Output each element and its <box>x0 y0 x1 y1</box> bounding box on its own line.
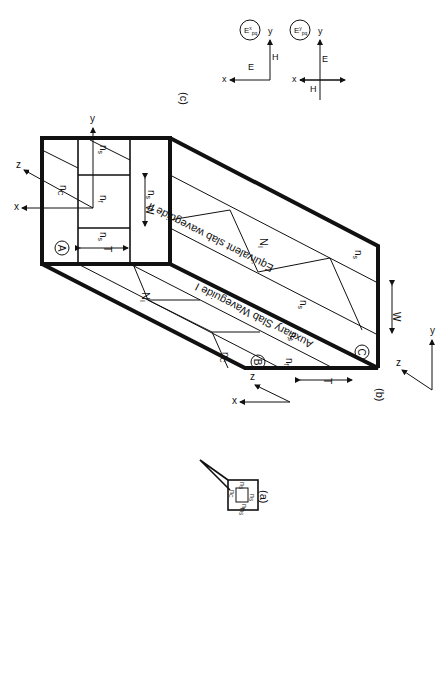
mode-ex-badge: Expq <box>244 25 258 36</box>
panel-a-ns-bottom: nS <box>248 494 256 502</box>
aux-x-axis-label: x <box>232 395 237 406</box>
panel-b-label: (b) <box>374 388 386 401</box>
mode-ey: x y E H Eypq <box>290 20 345 100</box>
front-nf-label: nf <box>97 195 109 203</box>
mode-ey-E-label: E <box>322 54 328 64</box>
corner-c-marker: C <box>355 345 369 359</box>
panel-a-label: (a) <box>258 490 270 503</box>
panel-c-label: (c) <box>178 92 190 105</box>
mode-ey-x-label: x <box>292 74 297 84</box>
eq-z-axis-label: z <box>396 357 401 368</box>
mode-ex-E-label: E <box>248 62 254 72</box>
front-W-label: W <box>144 205 155 215</box>
aux-T-label: T <box>322 378 333 384</box>
front-y-axis-label: y <box>90 113 95 124</box>
eq-W-label: W <box>391 312 402 322</box>
panel-a-core <box>236 488 248 502</box>
auxiliary-face-outline <box>42 264 378 368</box>
svg-text:C: C <box>356 348 367 355</box>
front-T-label: T <box>102 246 113 252</box>
svg-text:A: A <box>56 245 67 252</box>
waveguide-figure: A B C Auxiliary Slab Waveguide I Equival… <box>0 0 447 692</box>
front-z-axis-label: z <box>16 159 21 170</box>
front-ns-left-label: ns <box>97 232 109 242</box>
mode-ey-H-label: H <box>310 84 317 94</box>
mode-ey-y-label: y <box>318 26 323 36</box>
panel-a-small-waveguide: nf nS nC nS nS (a) <box>200 460 270 516</box>
auxiliary-slab-title: Auxiliary Slab Waveguide I <box>193 281 315 351</box>
panel-a-side <box>200 460 230 490</box>
aux-nf-label: nf <box>283 358 295 366</box>
panel-a-ns-left: nS <box>238 508 246 516</box>
eq-y-axis-label: y <box>430 325 435 336</box>
mode-ey-badge: Eypq <box>294 25 308 36</box>
mode-ex-H-label: H <box>272 52 279 62</box>
panel-b-waveguide: A B C Auxiliary Slab Waveguide I Equival… <box>14 113 435 406</box>
mode-ex-y-label: y <box>268 26 273 36</box>
panel-a-nc: nC <box>228 490 236 498</box>
front-x-axis-label: x <box>14 201 19 212</box>
svg-text:B: B <box>252 359 263 366</box>
front-ns-top-label: ns <box>97 145 109 155</box>
eq-ns-2-label: ns <box>352 250 364 260</box>
eq-ns-1-label: ns <box>297 300 309 310</box>
mode-ex-x-label: x <box>222 74 227 84</box>
front-ns-bottom-label: ns <box>145 190 157 200</box>
effective-index-eq: NI <box>257 238 270 248</box>
panel-a-ns-right: nS <box>238 482 246 490</box>
corner-a-marker: A <box>55 241 69 255</box>
panel-c-modes: x y E H Expq x y E H Eypq (c) <box>178 20 345 105</box>
mode-ex: x y E H Expq <box>222 20 279 84</box>
aux-z-axis-label: z <box>250 371 255 382</box>
